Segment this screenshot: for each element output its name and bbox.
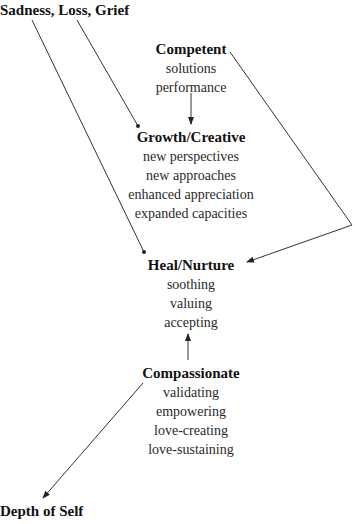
node-title: Growth/Creative	[116, 128, 266, 147]
node-compassionate: Compassionate validating empowering love…	[131, 364, 251, 459]
node-item: valuing	[136, 294, 246, 313]
node-title: Heal/Nurture	[136, 256, 246, 275]
node-item: love-sustaining	[131, 440, 251, 459]
node-item: accepting	[136, 313, 246, 332]
edge-sadness-growth	[77, 20, 138, 126]
label-sadness-loss-grief: Sadness, Loss, Grief	[0, 2, 129, 19]
node-item: new perspectives	[116, 147, 266, 166]
node-item: expanded capacities	[116, 204, 266, 223]
node-item: love-creating	[131, 421, 251, 440]
node-heal-nurture: Heal/Nurture soothing valuing accepting	[136, 256, 246, 332]
node-title: Compassionate	[131, 364, 251, 383]
node-item: solutions	[141, 59, 241, 78]
edge-compassionate-depth	[43, 383, 143, 498]
node-item: new approaches	[116, 166, 266, 185]
node-item: empowering	[131, 402, 251, 421]
node-growth-creative: Growth/Creative new perspectives new app…	[116, 128, 266, 223]
node-item: performance	[141, 78, 241, 97]
node-title: Competent	[141, 40, 241, 59]
node-item: validating	[131, 383, 251, 402]
node-item: enhanced appreciation	[116, 185, 266, 204]
label-depth-of-self: Depth of Self	[0, 503, 83, 520]
node-item: soothing	[136, 275, 246, 294]
node-competent: Competent solutions performance	[141, 40, 241, 97]
